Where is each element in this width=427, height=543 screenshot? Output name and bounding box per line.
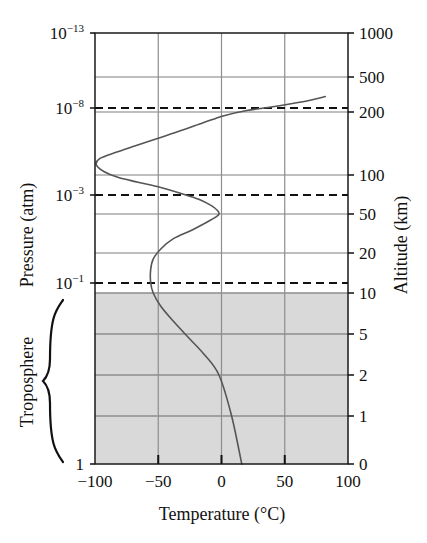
right-tick-5: 20 [348,244,376,263]
tick-label: 10−1 [55,272,84,293]
left-axis-title: Pressure (atm) [17,183,38,287]
right-tick-9: 1 [348,407,368,426]
right-tick-0: 1000 [348,24,393,43]
right-axis-title: Altitude (km) [391,196,412,294]
tick-label: 50 [359,205,376,224]
tick-label: 2 [359,366,368,385]
tick-label: 1 [359,407,368,426]
right-tick-4: 50 [348,205,376,224]
tick-label: 1000 [359,24,393,43]
troposphere-brace-label: Troposphere [17,337,37,427]
troposphere-brace [43,300,63,462]
right-axis-ticks: 10005002001005020105210 [348,24,393,474]
left-tick-2: 10−3 [55,184,95,205]
x-tick-0: −100 [77,472,112,491]
tick-label: 0 [217,472,226,491]
left-tick-3: 10−1 [55,272,95,293]
right-tick-8: 2 [348,366,368,385]
tick-label: 10−8 [55,97,84,118]
x-axis-title: Temperature (°C) [159,504,285,525]
right-tick-3: 100 [348,166,385,185]
tick-label: 10 [359,284,376,303]
left-axis-ticks: 10−1310−810−310−11 [50,22,95,474]
left-tick-1: 10−8 [55,97,95,118]
left-tick-0: 10−13 [50,22,95,43]
tick-label: 200 [359,103,385,122]
x-tick-4: 100 [335,472,361,491]
tick-label: −50 [145,472,172,491]
tick-label: 50 [276,472,293,491]
right-tick-6: 10 [348,284,376,303]
tick-label: 100 [335,472,361,491]
tick-label: 10−13 [50,22,85,43]
tick-label: 500 [359,68,385,87]
tick-label: 100 [359,166,385,185]
right-tick-2: 200 [348,103,385,122]
tick-label: −100 [77,472,112,491]
right-tick-7: 5 [348,325,368,344]
tick-label: 20 [359,244,376,263]
tick-label: 10−3 [55,184,84,205]
tick-label: 5 [359,325,368,344]
atmosphere-temperature-profile-figure: 10−1310−810−310−11 100050020010050201052… [0,0,427,543]
chart-canvas: 10−1310−810−310−11 100050020010050201052… [0,0,427,543]
right-tick-1: 500 [348,68,385,87]
